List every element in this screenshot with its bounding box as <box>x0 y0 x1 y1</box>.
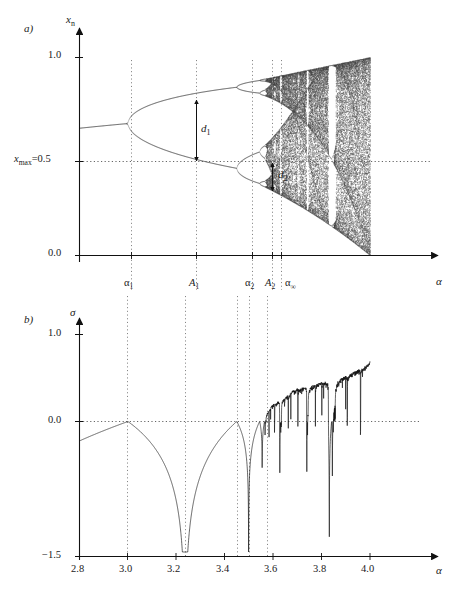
panel-b-ytick-label-neg15: −1.5 <box>42 549 61 560</box>
panel-a-ytick-label-0: 0.0 <box>48 247 61 258</box>
panel-a-ytick-label-xmax: xmax=0.5 <box>14 153 51 167</box>
panel-b-x-axis-label: α <box>436 564 442 576</box>
panel-b-xtick-label-38: 3.8 <box>313 563 326 574</box>
panel-b-guide-lines <box>128 296 268 556</box>
panel-a-ytick-label-1: 1.0 <box>48 49 61 60</box>
annotation-d1: d1 <box>201 122 210 137</box>
panel-b-y-axis-label: σ <box>70 306 75 318</box>
panel-a-xtick-label-alpha1: α1 <box>124 277 133 291</box>
panel-b-tag: b) <box>24 313 33 325</box>
panel-b-xtick-label-32: 3.2 <box>167 563 180 574</box>
panel-b-lyapunov <box>75 296 438 560</box>
panel-a-y-axis-label: xn <box>66 13 75 28</box>
bifurcation-and-lyapunov-figure <box>0 0 455 589</box>
panel-a-xtick-label-A1: A1 <box>189 277 199 291</box>
panel-b-xtick-label-30: 3.0 <box>119 563 132 574</box>
annotation-d2: d2 <box>278 168 287 183</box>
lyapunov-curve <box>80 361 371 552</box>
bifurcation-point-cloud <box>80 58 371 256</box>
panel-a-x-axis-label: α <box>436 275 442 287</box>
panel-a-bifurcation <box>75 28 438 290</box>
panel-b-xtick-label-28: 2.8 <box>71 563 84 574</box>
panel-a-xtick-label-alpha2: α2 <box>245 277 254 291</box>
panel-b-ytick-label-1: 1.0 <box>48 327 61 338</box>
panel-a-tag: a) <box>24 22 33 34</box>
panel-b-xtick-label-36: 3.6 <box>264 563 277 574</box>
panel-b-xtick-label-34: 3.4 <box>216 563 229 574</box>
panel-a-xtick-label-alphainf: α∞ <box>285 277 296 291</box>
panel-b-xtick-label-40: 4.0 <box>361 563 374 574</box>
panel-b-ytick-label-0: 0.0 <box>48 414 61 425</box>
panel-a-xtick-label-A2: A2 <box>265 277 275 291</box>
